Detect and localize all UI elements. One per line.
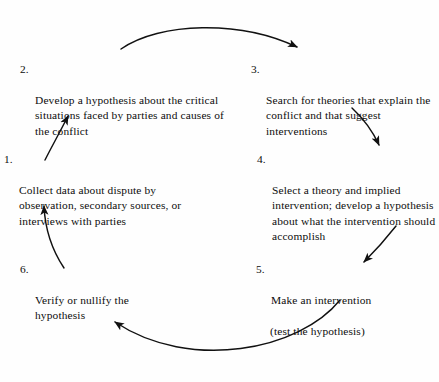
step-2-number: 2. — [20, 62, 29, 77]
step-4-label: Select a theory and implied intervention… — [257, 183, 437, 245]
step-6-number: 6. — [20, 262, 29, 277]
step-4-number: 4. — [257, 152, 266, 167]
step-1: 1. Collect data about dispute by observa… — [4, 152, 204, 244]
action-research-cycle-figure: Action research cycle diagram 2. Develop… — [0, 0, 439, 382]
step-5-label-line2: (test the hypothesis) — [256, 324, 416, 339]
step-1-number: 1. — [4, 152, 13, 167]
step-6-label: Verify or nullify the hypothesis — [20, 293, 180, 324]
step-4: 4. Select a theory and implied intervent… — [257, 152, 437, 260]
arrow-2-to-3 — [121, 28, 297, 49]
step-2: 2. Develop a hypothesis about the critic… — [20, 62, 238, 154]
step-6: 6. Verify or nullify the hypothesis — [20, 262, 180, 339]
step-3: 3. Search for theories that explain the … — [251, 62, 437, 154]
step-1-label: Collect data about dispute by observatio… — [4, 183, 204, 229]
step-2-label: Develop a hypothesis about the critical … — [20, 93, 238, 139]
step-3-number: 3. — [251, 62, 260, 77]
step-5-number: 5. — [256, 262, 265, 277]
step-3-label: Search for theories that explain the con… — [251, 93, 437, 139]
step-5: 5. Make an intervention (test the hypoth… — [256, 262, 416, 354]
step-5-label-line1: Make an intervention — [256, 293, 416, 308]
